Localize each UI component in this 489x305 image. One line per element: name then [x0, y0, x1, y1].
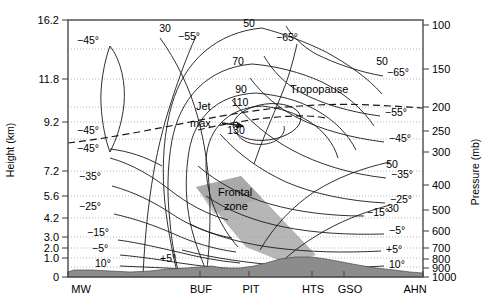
isotherm-label-m65-right: −65°: [387, 66, 409, 78]
isotach-label-130: 130: [227, 124, 245, 136]
pressure-tick-150: 150: [432, 63, 450, 75]
isotherm-label-m65-top: −65°: [276, 31, 298, 43]
isotach-label-110: 110: [232, 96, 249, 108]
isotach-label-30-top: 30: [159, 22, 171, 34]
height-tick-16-2: 16.2: [38, 14, 59, 26]
isotherm-label-m15-right: −15°: [367, 206, 389, 218]
atmospheric-cross-section-figure: 16.2 11.8 9.2 7.2 5.6 4.2 3.0 2.0 1.0 0 …: [0, 0, 489, 305]
height-tick-11-8: 11.8: [38, 73, 59, 85]
height-tick-9-2: 9.2: [44, 116, 59, 128]
station-label-gso: GSO: [338, 283, 363, 295]
height-tick-1-0: 1.0: [44, 252, 59, 264]
pressure-tick-100: 100: [432, 19, 450, 31]
isotherm-label-10-left: 10°: [95, 257, 111, 269]
jet-max-annotation: max: [190, 117, 211, 129]
jet-annotation: Jet: [196, 100, 211, 112]
isotherm-label-m55-right: −55°: [385, 106, 407, 118]
height-tick-7-2: 7.2: [44, 165, 59, 177]
isotherm-label-m45-low-left: −45°: [77, 142, 99, 154]
station-label-hts: HTS: [302, 283, 324, 295]
isotherm-label-p5-right: +5°: [386, 243, 402, 255]
chart-background: [0, 0, 489, 305]
isotherm-label-m5-right: −5°: [389, 224, 405, 236]
isotach-label-70: 70: [232, 55, 244, 67]
station-label-ahn: AHN: [403, 283, 426, 295]
height-tick-4-2: 4.2: [44, 212, 59, 224]
isotherm-label-m35-left: −35°: [79, 170, 101, 182]
station-label-mw: MW: [71, 283, 91, 295]
isotherm-label-m45-upper-left: −45°: [77, 34, 99, 46]
isotherm-label-m25-right: −25°: [390, 193, 412, 205]
isotherm-label-m15-left: −15°: [87, 226, 109, 238]
isotherm-label-10-right: 10°: [389, 258, 405, 270]
isotherm-label-m35-right: −35°: [391, 168, 413, 180]
pressure-tick-200: 200: [432, 101, 450, 113]
frontal-zone-annotation-line2: zone: [224, 200, 248, 212]
isotherm-label-m45-right: −45°: [389, 132, 411, 144]
tropopause-annotation: Tropopause: [290, 83, 348, 95]
pressure-tick-1000: 1000: [432, 271, 456, 283]
height-tick-5-6: 5.6: [44, 190, 59, 202]
pressure-tick-600: 600: [432, 225, 450, 237]
isotherm-label-m5-left: −5°: [92, 242, 108, 254]
pressure-tick-300: 300: [432, 146, 450, 158]
frontal-zone-annotation-line1: Frontal: [218, 186, 252, 198]
height-axis-title: Height (km): [4, 123, 16, 177]
station-label-buf: BUF: [190, 283, 212, 295]
pressure-tick-400: 400: [432, 179, 450, 191]
isotherm-label-m55-top: −55°: [178, 30, 200, 42]
pressure-tick-500: 500: [432, 204, 450, 216]
isotach-label-50-top: 50: [243, 17, 255, 29]
station-label-pit: PIT: [242, 283, 259, 295]
isotherm-label-p5-mid: +5°: [160, 252, 176, 264]
cross-section-chart: 16.2 11.8 9.2 7.2 5.6 4.2 3.0 2.0 1.0 0 …: [0, 0, 489, 305]
height-tick-0: 0: [53, 271, 59, 283]
isotherm-label-m25-left: −25°: [79, 200, 101, 212]
isotach-label-90: 90: [235, 83, 247, 95]
isotherm-label-m45-mid-left: −45°: [77, 124, 99, 136]
pressure-axis-title: Pressure (mb): [469, 139, 481, 206]
pressure-tick-250: 250: [432, 125, 450, 137]
